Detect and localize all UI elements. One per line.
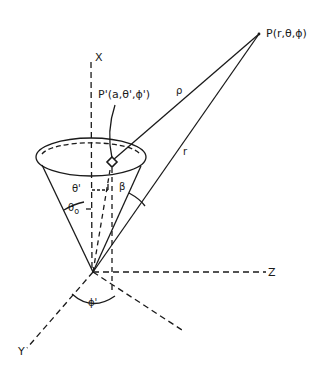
- field-point-marker: [258, 33, 261, 36]
- field-point-label: P(r,θ,ϕ): [266, 28, 307, 39]
- p-prime-leader: [110, 105, 115, 158]
- phi-prime-label: ϕ': [88, 298, 97, 308]
- cone-side-right: [93, 166, 141, 272]
- source-point-label: P'(a,θ',ϕ'): [98, 89, 150, 100]
- theta-prime-label: θ': [72, 184, 81, 194]
- beta-label: β: [119, 182, 125, 192]
- beta-arc: [129, 193, 145, 206]
- cone-side-left: [42, 165, 93, 272]
- x-axis-line: [91, 62, 92, 272]
- z-axis-label: Z: [268, 267, 276, 278]
- y-axis-line: [27, 272, 93, 348]
- theta0-label: θo: [68, 203, 79, 216]
- y-axis-label: Y: [18, 346, 25, 357]
- cone-diagram: [0, 0, 334, 365]
- r-line: [93, 34, 259, 272]
- r-label: r: [183, 147, 187, 157]
- rho-label: ρ: [176, 86, 182, 96]
- x-axis-label: X: [95, 52, 103, 63]
